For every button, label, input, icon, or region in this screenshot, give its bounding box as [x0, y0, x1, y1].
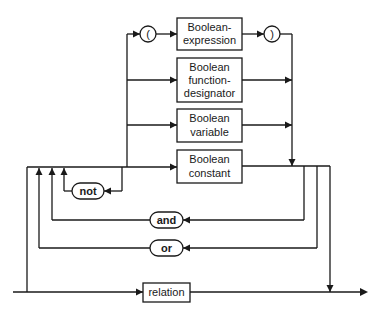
lparen-terminal[interactable]: (	[140, 26, 156, 42]
arrow-right-icon	[133, 31, 140, 38]
arrow-right-icon	[170, 77, 177, 84]
arrow-right-icon	[170, 164, 177, 171]
box-label: Boolean-	[187, 21, 231, 33]
syntax-diagram: ( Boolean- expression ) Boolean function…	[0, 0, 377, 314]
rparen-label: )	[270, 28, 274, 40]
arrow-right-icon	[285, 122, 292, 129]
arrow-left-icon	[183, 217, 190, 224]
arrow-right-icon	[170, 122, 177, 129]
boolean-variable-box[interactable]: Boolean variable	[177, 109, 242, 142]
rparen-terminal[interactable]: )	[264, 26, 280, 42]
box-label: Boolean	[189, 61, 229, 73]
and-terminal[interactable]: and	[150, 212, 183, 228]
box-label: designator	[184, 87, 236, 99]
or-terminal[interactable]: or	[150, 240, 183, 256]
exit-arrow-icon	[360, 288, 368, 296]
arrow-right-icon	[136, 289, 143, 296]
relation-label: relation	[148, 286, 184, 298]
lparen-label: (	[146, 28, 150, 40]
arrow-left-icon	[104, 188, 111, 195]
not-terminal[interactable]: not	[72, 183, 104, 199]
relation-box[interactable]: relation	[143, 283, 190, 302]
or-label: or	[161, 242, 173, 254]
arrow-right-icon	[170, 31, 177, 38]
arrow-down-icon	[327, 285, 334, 292]
box-label: function-	[188, 74, 231, 86]
arrow-right-icon	[257, 31, 264, 38]
box-label: Boolean	[189, 153, 229, 165]
box-label: expression	[183, 34, 236, 46]
arrow-left-icon	[183, 245, 190, 252]
boolean-constant-box[interactable]: Boolean constant	[177, 150, 242, 183]
and-label: and	[157, 214, 177, 226]
box-label: constant	[189, 167, 231, 179]
boolean-expression-box[interactable]: Boolean- expression	[177, 18, 242, 50]
box-label: variable	[190, 126, 229, 138]
arrow-down-icon	[289, 159, 296, 166]
not-label: not	[79, 185, 96, 197]
box-label: Boolean	[189, 112, 229, 124]
arrow-right-icon	[285, 77, 292, 84]
boolean-function-designator-box[interactable]: Boolean function- designator	[177, 58, 242, 102]
